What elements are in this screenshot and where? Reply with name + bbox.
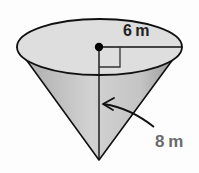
cone-diagram: 6 m 8 m: [0, 0, 199, 173]
center-dot: [95, 43, 103, 51]
radius-label: 6 m: [123, 22, 149, 40]
height-label: 8 m: [155, 132, 183, 152]
